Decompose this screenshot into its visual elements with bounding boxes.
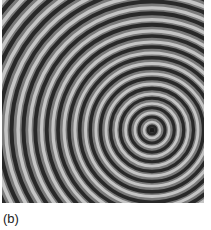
concentric-rings (2, 0, 204, 203)
ring-pattern-image (2, 0, 204, 203)
figure-label: (b) (3, 211, 19, 226)
